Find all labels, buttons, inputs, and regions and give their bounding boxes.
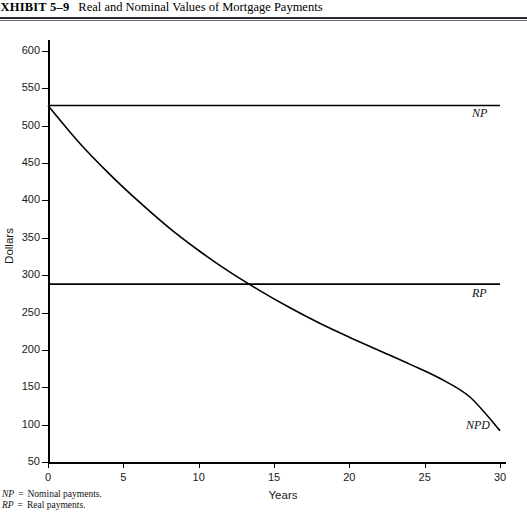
header-rule-thick	[0, 17, 527, 19]
series-label-rp: RP	[472, 286, 487, 301]
figure-footnotes: NP=Nominal payments.RP=Real payments.	[2, 489, 302, 511]
footnote-text: Nominal payments.	[28, 489, 102, 499]
page-title: Real and Nominal Values of Mortgage Paym…	[69, 0, 322, 14]
series-label-npd: NPD	[466, 418, 490, 433]
footnote-row: NP=Nominal payments.	[2, 489, 302, 500]
footnote-text: Real payments.	[27, 500, 86, 510]
chart-series-layer	[0, 22, 527, 512]
exhibit-header: EXHIBIT 5–9Real and Nominal Values of Mo…	[0, 0, 527, 22]
footnote-abbr: RP	[2, 500, 14, 510]
footnote-equals: =	[14, 489, 27, 499]
exhibit-label: EXHIBIT 5–9	[0, 0, 69, 14]
footnote-equals: =	[14, 500, 27, 510]
series-line-npd	[48, 106, 500, 431]
exhibit-title-line: EXHIBIT 5–9Real and Nominal Values of Mo…	[0, 0, 323, 15]
footnote-row: RP=Real payments.	[2, 500, 302, 511]
chart-figure: 50100150200250300350400450500550600 0510…	[0, 22, 527, 512]
footnote-abbr: NP	[2, 489, 14, 499]
series-label-np: NP	[472, 106, 487, 121]
header-rule-thin	[0, 20, 527, 21]
